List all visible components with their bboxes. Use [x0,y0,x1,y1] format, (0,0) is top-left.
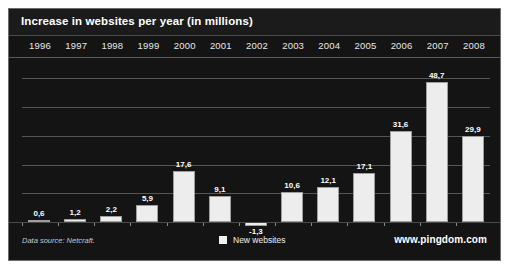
bar-group-2001[interactable]: 9,1 [203,58,237,233]
x-axis-label-1999: 1999 [132,40,166,51]
x-axis-label-2005: 2005 [348,40,382,51]
x-axis-label-2007: 2007 [421,40,455,51]
bar-2005[interactable] [353,173,375,222]
bar-group-2005[interactable]: 17,1 [347,58,381,233]
bar-2000[interactable] [173,171,195,222]
bar-1999[interactable] [136,205,158,222]
legend-label: New websites [233,235,285,245]
bar-value-label-1998: 2,2 [91,205,131,214]
bar-value-label-1999: 5,9 [127,194,167,203]
bar-group-2007[interactable]: 48,7 [420,58,454,233]
bar-value-label-2000: 17,6 [164,160,204,169]
bar-group-2000[interactable]: 17,6 [167,58,201,233]
legend-swatch-icon [219,236,227,244]
x-axis-label-2004: 2004 [312,40,346,51]
bar-value-label-2004: 12,1 [308,176,348,185]
x-axis-label-2006: 2006 [385,40,419,51]
x-axis-label-2001: 2001 [204,40,238,51]
bar-value-label-2006: 31,6 [381,120,421,129]
bar-value-label-2005: 17,1 [344,162,384,171]
bar-group-2006[interactable]: 31,6 [384,58,418,233]
x-axis-label-1997: 1997 [59,40,93,51]
x-axis-label-2003: 2003 [276,40,310,51]
bar-value-label-2007: 48,7 [417,71,457,80]
bar-2007[interactable] [426,82,448,222]
bar-group-1997[interactable]: 1,2 [58,58,92,233]
x-axis-label-1996: 1996 [23,40,57,51]
bar-group-2002[interactable]: -1,3 [239,58,273,233]
bar-value-label-2008: 29,9 [453,125,493,134]
x-axis-label-2008: 2008 [457,40,491,51]
bar-group-2004[interactable]: 12,1 [311,58,345,233]
bar-group-2008[interactable]: 29,9 [456,58,490,233]
bar-group-1996[interactable]: 0,6 [22,58,56,233]
bar-group-2003[interactable]: 10,6 [275,58,309,233]
bar-2004[interactable] [317,187,339,222]
chart-title: Increase in websites per year (in millio… [21,15,253,27]
bar-group-1998[interactable]: 2,2 [94,58,128,233]
chart-footer: Data source: Netcraft. New websites www.… [9,222,500,260]
x-axis-label-2000: 2000 [168,40,202,51]
x-axis-label-2002: 2002 [240,40,274,51]
bar-value-label-2001: 9,1 [200,185,240,194]
watermark-pingdom: www.pingdom.com [394,234,487,245]
x-axis-label-1998: 1998 [95,40,129,51]
bar-group-1999[interactable]: 5,9 [130,58,164,233]
bar-2003[interactable] [281,192,303,222]
bar-value-label-1997: 1,2 [55,208,95,217]
bar-2001[interactable] [209,196,231,222]
x-axis-year-labels: 1996199719981999200020012002200320042005… [9,36,500,58]
bar-value-label-2003: 10,6 [272,181,312,190]
chart-legend: New websites [219,235,285,245]
chart-title-bar: Increase in websites per year (in millio… [9,9,500,36]
bar-2006[interactable] [390,131,412,222]
bar-value-label-1996: 0,6 [19,209,59,218]
data-source-note: Data source: Netcraft. [22,236,95,245]
bar-2008[interactable] [462,136,484,222]
chart-frame: Increase in websites per year (in millio… [8,8,501,261]
bars-layer: 0,61,22,25,917,69,1-1,310,612,117,131,64… [9,58,500,233]
